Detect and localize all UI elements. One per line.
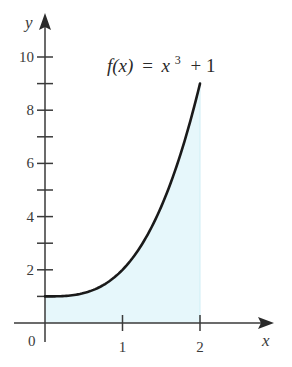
y-tick-label: 2 [27, 262, 35, 278]
origin-label: 0 [28, 333, 36, 349]
function-label-exponent: 3 [175, 53, 181, 67]
function-label-rest: + 1 [191, 55, 216, 76]
x-tick-label: 2 [196, 339, 204, 355]
shaded-area [45, 84, 200, 323]
y-tick-label: 8 [27, 102, 35, 118]
function-area-chart: 246810 12 y x 0 f(x) = x 3 + 1 [0, 0, 292, 367]
y-tick-label: 10 [19, 49, 34, 65]
y-axis-label: y [23, 13, 33, 32]
x-tick-label: 1 [119, 339, 127, 355]
y-tick-label: 4 [27, 209, 35, 225]
y-axis-ticks: 246810 [19, 49, 53, 296]
x-axis-label: x [261, 331, 270, 350]
function-label-var: x [161, 55, 171, 76]
function-label-lhs: f(x) [107, 55, 133, 77]
function-label-eq: = [142, 55, 153, 76]
y-tick-label: 6 [27, 155, 35, 171]
function-label: f(x) = x 3 + 1 [107, 47, 216, 77]
